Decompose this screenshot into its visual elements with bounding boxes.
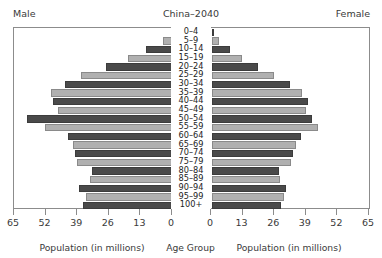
female-bar (212, 37, 219, 44)
axis-tick (273, 209, 274, 215)
pyramid-row (14, 107, 371, 114)
male-bar (79, 185, 173, 192)
axis-tick-label: 52 (330, 217, 342, 228)
male-bar (75, 150, 173, 157)
axis-tick (139, 209, 140, 215)
center-divider-left (171, 27, 172, 209)
left-axis-caption: Population (in millions) (39, 242, 144, 253)
female-bar (212, 29, 214, 36)
female-bar (212, 185, 286, 192)
axis-tick-label: 65 (362, 217, 374, 228)
pyramid-row (14, 185, 371, 192)
male-bar (92, 167, 173, 174)
female-bar (212, 98, 308, 105)
female-bar (212, 81, 290, 88)
pyramid-row (14, 141, 371, 148)
axis-tick-label: 0 (168, 217, 174, 228)
pyramid-row (14, 124, 371, 131)
female-bar (212, 89, 302, 96)
pyramid-row (14, 159, 371, 166)
pyramid-row (14, 115, 371, 122)
male-bar (73, 141, 173, 148)
population-pyramid-chart: Male China–2040 Female 0–45–910–1415–192… (0, 0, 382, 258)
axis-tick (305, 209, 306, 215)
female-bar (212, 124, 318, 131)
plot-area (13, 27, 370, 209)
center-divider-right (210, 27, 211, 209)
pyramid-row (14, 63, 371, 70)
male-bar (53, 98, 173, 105)
axis-tick-label: 52 (39, 217, 51, 228)
axis-tick (13, 209, 14, 215)
male-bar (51, 89, 173, 96)
male-bar (86, 193, 174, 200)
pyramid-row (14, 193, 371, 200)
center-axis-caption: Age Group (166, 242, 215, 253)
axis-tick (171, 209, 172, 215)
female-bar (212, 159, 291, 166)
axis-tick (45, 209, 46, 215)
axis-tick (76, 209, 77, 215)
male-bar (90, 176, 173, 183)
female-bar (212, 107, 306, 114)
axis-tick-label: 39 (299, 217, 311, 228)
female-bar (212, 115, 312, 122)
pyramid-row (14, 29, 371, 36)
axis-tick-label: 65 (7, 217, 19, 228)
axis-tick (210, 209, 211, 215)
pyramid-row (14, 98, 371, 105)
pyramid-row (14, 150, 371, 157)
male-bar (106, 63, 173, 70)
male-bar (81, 72, 173, 79)
axis-tick-label: 13 (133, 217, 145, 228)
male-bar (27, 115, 173, 122)
axis-tick (368, 209, 369, 215)
female-bar (212, 72, 274, 79)
female-bar (212, 46, 230, 53)
male-bar (77, 159, 173, 166)
axis-tick (242, 209, 243, 215)
axis-tick-label: 26 (102, 217, 114, 228)
axis-tick-label: 26 (267, 217, 279, 228)
axis-tick (108, 209, 109, 215)
axis-tick-label: 0 (207, 217, 213, 228)
female-side-label: Female (336, 8, 370, 19)
right-axis-caption: Population (in millions) (236, 242, 341, 253)
male-bar (65, 81, 173, 88)
male-bar (45, 124, 173, 131)
axis-tick-label: 13 (236, 217, 248, 228)
female-bar (212, 167, 279, 174)
female-bar (212, 176, 280, 183)
chart-title: China–2040 (0, 8, 382, 19)
female-bar (212, 63, 258, 70)
male-bar (68, 133, 173, 140)
pyramid-row (14, 167, 371, 174)
x-axis: 6552392613001326395265Population (in mil… (0, 209, 382, 217)
pyramid-row (14, 133, 371, 140)
female-bar (212, 141, 296, 148)
pyramid-row (14, 72, 371, 79)
male-bar (146, 46, 173, 53)
female-bar (212, 150, 293, 157)
pyramid-row (14, 81, 371, 88)
pyramid-row (14, 46, 371, 53)
pyramid-row (14, 55, 371, 62)
pyramid-row (14, 176, 371, 183)
male-bar (128, 55, 173, 62)
pyramid-row (14, 37, 371, 44)
male-bar (58, 107, 173, 114)
female-bar (212, 133, 301, 140)
axis-tick-label: 39 (70, 217, 82, 228)
female-bar (212, 193, 284, 200)
pyramid-row (14, 89, 371, 96)
female-bar (212, 55, 242, 62)
axis-tick (336, 209, 337, 215)
